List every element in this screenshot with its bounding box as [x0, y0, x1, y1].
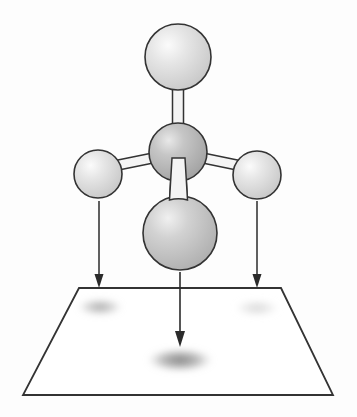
shadow-left: [77, 298, 123, 316]
molecule-projection-figure: Tetrahedral molecule projecting shadows …: [0, 0, 357, 417]
right-atom: [233, 151, 281, 199]
shadow-center: [147, 348, 213, 372]
bond-center-bottom-front: [170, 158, 188, 200]
top-atom: [145, 24, 211, 90]
shadow-right: [234, 299, 280, 317]
bottom-atom: [143, 196, 217, 270]
figure-canvas: [0, 0, 357, 417]
left-atom: [74, 150, 122, 198]
